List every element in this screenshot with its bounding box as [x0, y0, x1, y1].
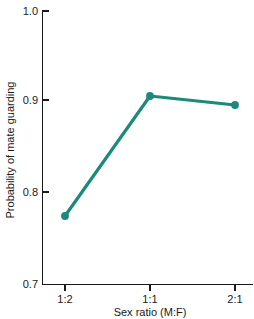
chart-figure: 1.0 0.9 0.8 0.7 1:2 1:1 2:1 Sex ratio (M… [0, 0, 254, 319]
line-chart-canvas: 1.0 0.9 0.8 0.7 1:2 1:1 2:1 Sex ratio (M… [0, 0, 254, 319]
x-tick-label-1-2: 1:2 [57, 293, 72, 305]
y-axis-title: Probability of mate guarding [4, 82, 16, 219]
data-point-2-1 [231, 101, 239, 109]
y-tick-label-0.9: 0.9 [23, 94, 38, 106]
x-tick-label-2-1: 2:1 [227, 293, 242, 305]
y-tick-label-0.8: 0.8 [23, 186, 38, 198]
x-tick-label-1-1: 1:1 [142, 293, 157, 305]
x-axis-title: Sex ratio (M:F) [114, 306, 187, 318]
data-point-1-2 [61, 212, 69, 220]
chart-background [0, 0, 254, 319]
y-tick-label-0.7: 0.7 [23, 278, 38, 290]
data-point-1-1 [146, 92, 154, 100]
y-tick-label-1.0: 1.0 [23, 5, 38, 17]
